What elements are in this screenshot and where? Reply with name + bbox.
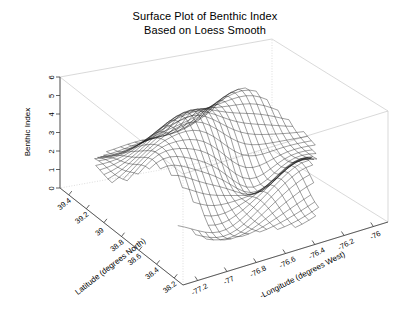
axis-tick xyxy=(371,223,374,227)
box-edge xyxy=(183,111,388,174)
z-tick-label: 0 xyxy=(47,186,56,190)
mesh-gridline xyxy=(127,139,315,180)
mesh-gridline xyxy=(149,116,249,234)
axis-tick xyxy=(224,268,227,272)
x-tick-label: 39.4 xyxy=(56,196,73,212)
x-tick-label: 38.4 xyxy=(144,265,161,281)
y-tick-label: -76.8 xyxy=(248,263,267,279)
y-tick-label: -77 xyxy=(222,274,236,287)
surface-plot-figure: Surface Plot of Benthic Index Based on L… xyxy=(0,0,410,317)
y-tick-label: -76 xyxy=(368,229,382,242)
axis-tick xyxy=(341,232,344,236)
box-edge xyxy=(272,39,388,111)
z-tick-label: 6 xyxy=(47,75,56,79)
z-tick-label: 5 xyxy=(47,94,56,98)
mesh-gridline xyxy=(196,165,313,237)
axis-tick xyxy=(195,277,198,281)
x-tick-label: 38.2 xyxy=(161,279,178,295)
surface-wireframe xyxy=(95,88,319,240)
y-tick-label: -76.6 xyxy=(278,254,297,270)
mesh-gridline xyxy=(106,110,212,152)
mesh-gridline xyxy=(156,112,260,232)
mesh-gridline xyxy=(205,100,315,216)
x-tick-label: 39.2 xyxy=(73,210,90,226)
mesh-gridline xyxy=(178,160,309,232)
y-tick-label: -76.2 xyxy=(336,236,355,252)
chart-canvas: 0123456Benthic Index39.439.23938.838.638… xyxy=(0,0,410,317)
x-tick-label: 39 xyxy=(93,226,105,238)
mesh-gridline xyxy=(96,165,112,182)
z-tick-label: 3 xyxy=(47,131,56,135)
axis-tick xyxy=(283,250,286,254)
axis-title: -Longitude (degrees West) xyxy=(258,249,347,300)
axis-tick xyxy=(122,233,125,237)
axis-tick xyxy=(86,205,89,209)
mesh-gridline xyxy=(177,109,284,227)
mesh-gridline xyxy=(205,232,213,240)
mesh-gridline xyxy=(103,100,223,156)
y-tick-label: -77.2 xyxy=(190,281,209,297)
axis-tick xyxy=(69,191,72,195)
mesh-gridline xyxy=(95,90,257,159)
axis-tick xyxy=(104,219,107,223)
axis-tick xyxy=(157,260,160,264)
z-tick-label: 1 xyxy=(47,168,56,172)
axis-tick xyxy=(312,241,315,245)
axis-tick xyxy=(254,259,257,263)
box-edge xyxy=(60,39,272,77)
axis-title: Benthic Index xyxy=(23,108,32,156)
z-tick-label: 2 xyxy=(47,149,56,153)
mesh-gridline xyxy=(295,216,316,228)
mesh-gridline xyxy=(212,96,318,207)
box-edge xyxy=(60,150,272,188)
z-tick-label: 4 xyxy=(47,112,56,116)
axis-tick xyxy=(174,274,177,278)
